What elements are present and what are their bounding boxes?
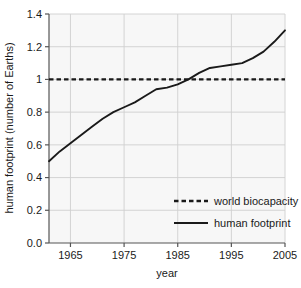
x-tick-label: 2005 — [273, 249, 297, 261]
legend-label: world biocapacity — [213, 195, 299, 207]
x-axis-tick-labels: 19651975198519952005 — [58, 249, 297, 261]
chart-figure: 0.00.20.40.60.811.21.4 19651975198519952… — [0, 0, 301, 288]
y-tick-label: 0.4 — [27, 171, 42, 183]
x-tick-label: 1995 — [219, 249, 243, 261]
x-tick-label: 1975 — [112, 249, 136, 261]
y-axis-tick-labels: 0.00.20.40.60.811.21.4 — [27, 8, 42, 249]
y-tick-label: 0.8 — [27, 106, 42, 118]
y-tick-label: 0.6 — [27, 139, 42, 151]
y-tick-label: 0.2 — [27, 204, 42, 216]
y-tick-label: 1 — [36, 73, 42, 85]
x-tick-label: 1965 — [58, 249, 82, 261]
line-chart: 0.00.20.40.60.811.21.4 19651975198519952… — [0, 0, 301, 288]
x-axis-title: year — [156, 267, 178, 279]
y-axis-title: human footprint (number of Earths) — [3, 42, 15, 213]
x-tick-label: 1985 — [165, 249, 189, 261]
plot-area-background — [49, 14, 285, 243]
y-tick-label: 0.0 — [27, 237, 42, 249]
y-tick-label: 1.2 — [27, 41, 42, 53]
legend-label: human footprint — [214, 217, 290, 229]
y-tick-label: 1.4 — [27, 8, 42, 20]
x-axis-ticks — [70, 243, 285, 247]
